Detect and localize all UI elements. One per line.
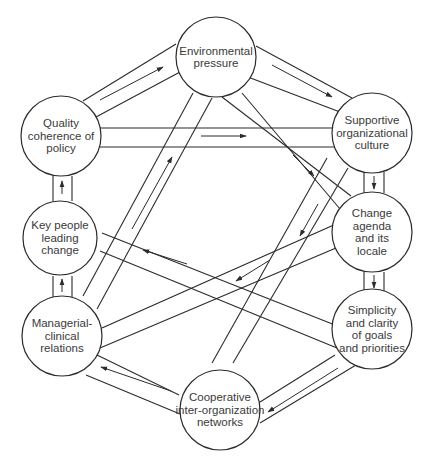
node-env-circle: [176, 17, 256, 97]
node-chg-circle: [332, 192, 412, 272]
edge-band-line: [260, 355, 335, 402]
edge-mgr-to-key: [53, 276, 72, 297]
node-coop-circle: [180, 370, 260, 450]
edge-coop-to-mgr: [86, 355, 180, 414]
edge-chg-to-mgr: [100, 224, 336, 348]
edge-band-line: [233, 168, 348, 363]
edge-band-line: [102, 224, 336, 328]
edge-supp-to-coop: [212, 158, 348, 363]
arrow-icon: [101, 367, 171, 391]
influence-diagram: [0, 0, 434, 467]
edge-qual-to-supp: [100, 128, 336, 147]
arrow-icon: [100, 67, 163, 100]
node-simp-circle: [332, 289, 412, 369]
edge-band-line: [97, 98, 212, 309]
edge-band-line: [242, 93, 340, 209]
edge-simp-to-key: [100, 233, 340, 348]
edge-mgr-to-env: [83, 93, 212, 309]
arrow-icon: [300, 204, 318, 236]
node-key-circle: [23, 201, 97, 275]
edge-band-line: [102, 233, 340, 327]
arrow-icon: [272, 65, 332, 97]
edge-band-line: [260, 365, 356, 423]
edge-env-to-supp: [240, 46, 352, 112]
edge-band-line: [83, 44, 176, 101]
edge-key-to-qual: [53, 176, 72, 201]
node-mgr-circle: [22, 296, 102, 376]
edge-supp-to-chg: [364, 172, 384, 193]
node-supp-circle: [332, 93, 412, 173]
arrow-icon: [143, 250, 187, 264]
edge-band-line: [96, 72, 180, 117]
edge-chg-to-simp: [364, 272, 384, 291]
edge-band-line: [256, 46, 352, 98]
edge-simp-to-coop: [260, 355, 356, 423]
edge-band-line: [86, 375, 180, 414]
node-qual-circle: [21, 96, 101, 176]
nodes-layer: [21, 17, 412, 450]
edge-qual-to-env: [83, 44, 180, 117]
edge-env-to-chg: [222, 93, 351, 209]
